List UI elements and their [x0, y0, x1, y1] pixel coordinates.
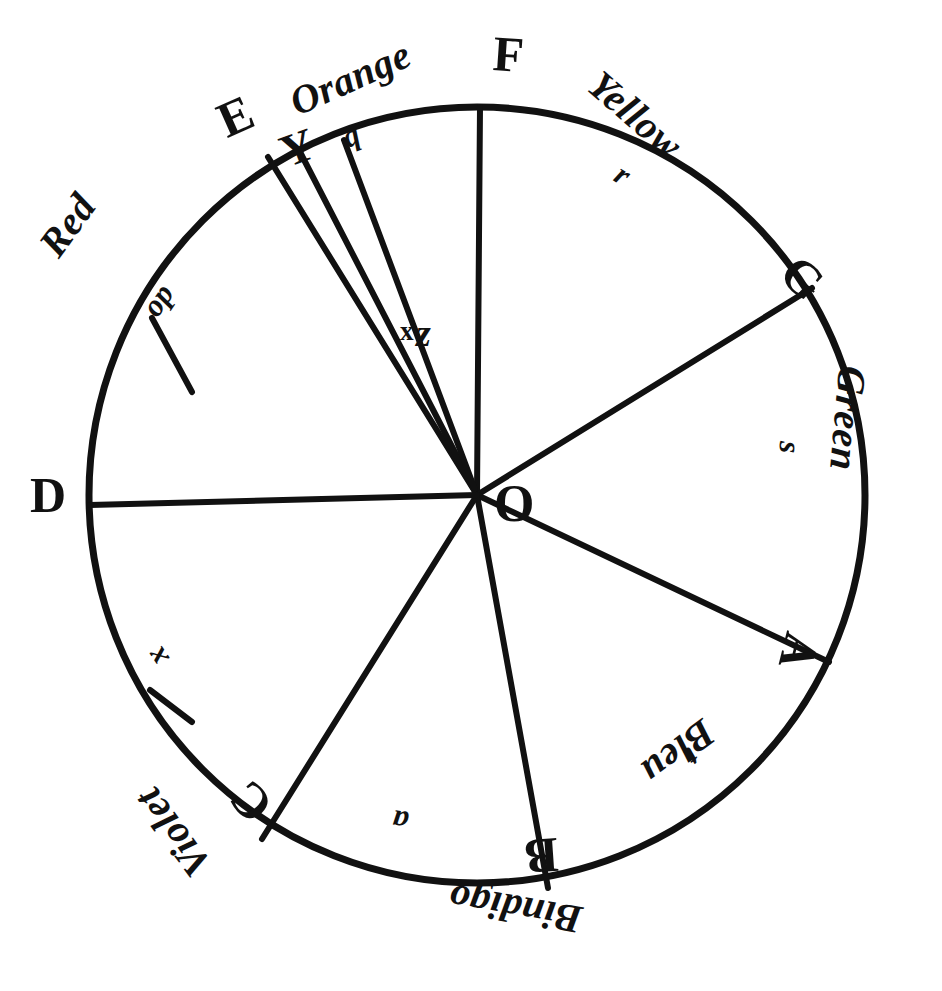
centre-point-label-o: O	[494, 478, 534, 530]
radius-of	[477, 107, 480, 495]
radius-od	[90, 495, 477, 505]
vertex-letter-b: B	[523, 830, 560, 882]
radius-og	[477, 288, 812, 495]
radius-oy	[300, 152, 477, 495]
radius-oc	[262, 495, 477, 839]
vertex-letter-d: D	[30, 470, 66, 520]
colour-circle-drawing	[0, 0, 942, 991]
vertex-letter-f: F	[492, 28, 526, 80]
tick-op	[152, 318, 192, 392]
inner-mark-x: x	[400, 318, 414, 345]
division-letter-s: s	[775, 441, 806, 454]
colour-name-green: Green	[823, 365, 872, 473]
inner-mark-z: z	[416, 314, 431, 352]
colour-circle-figure: Red Orange Yellow Green Bleu Bindigo Vio…	[0, 0, 942, 991]
